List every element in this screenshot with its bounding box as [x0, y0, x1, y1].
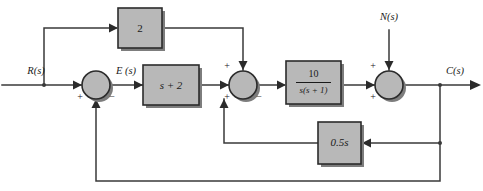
- summer-3-sign-left: +: [370, 91, 376, 102]
- summer-3-sign-top: +: [370, 60, 376, 71]
- block-feedforward-gain[interactable]: 2: [118, 8, 165, 51]
- summer-1-sign-left: +: [77, 91, 83, 102]
- label-reference-input: R(s): [26, 65, 45, 77]
- arrow-into-gain2: [109, 24, 118, 33]
- arrow-into-summer2-top: [239, 61, 248, 70]
- arrow-into-controller: [134, 81, 143, 90]
- summer-2-sign-top: +: [224, 60, 230, 71]
- arrow-into-summer3-left: [366, 81, 375, 90]
- summer-2-sign-bottom: −: [256, 91, 262, 102]
- summer-1-body: [82, 71, 110, 99]
- block-feedforward-gain-label: 2: [137, 22, 143, 34]
- summer-2-sign-left: +: [224, 91, 230, 102]
- block-controller-label: s + 2: [160, 79, 183, 91]
- control-system-block-diagram: 2 s + 2 10 s(s + 1) 0.5s + −: [0, 0, 483, 191]
- takeoff-node-reference: [42, 83, 46, 87]
- wire-unity-feedback-to-summer1: [96, 99, 440, 181]
- block-plant[interactable]: 10 s(s + 1): [286, 61, 344, 107]
- wire-gain2-to-summer2: [162, 28, 243, 70]
- block-rate-feedback-label: 0.5s: [330, 136, 348, 148]
- arrow-into-plant: [277, 81, 286, 90]
- takeoff-node-rate-feedback: [438, 141, 442, 145]
- block-plant-numerator: 10: [309, 68, 319, 79]
- label-output: C(s): [446, 65, 465, 77]
- summer-3-body: [375, 71, 403, 99]
- block-controller[interactable]: s + 2: [143, 65, 202, 108]
- summer-2-body: [229, 71, 257, 99]
- takeoff-node-output: [438, 83, 442, 87]
- label-error-signal: E (s): [115, 65, 137, 77]
- arrow-output-terminal: [470, 80, 481, 90]
- block-rate-feedback-gain[interactable]: 0.5s: [318, 122, 364, 167]
- wire-network: [2, 28, 478, 181]
- arrow-into-summer3-top: [385, 61, 394, 70]
- arrow-into-summer2-left: [220, 81, 229, 90]
- arrow-into-summer1: [73, 81, 82, 90]
- label-disturbance-input: N(s): [379, 11, 399, 23]
- block-plant-denominator: s(s + 1): [299, 85, 327, 95]
- block-diagram-canvas: 2 s + 2 10 s(s + 1) 0.5s + −: [0, 0, 483, 191]
- summing-junction-1[interactable]: + −: [77, 71, 115, 102]
- summer-1-sign-bottom: −: [109, 91, 115, 102]
